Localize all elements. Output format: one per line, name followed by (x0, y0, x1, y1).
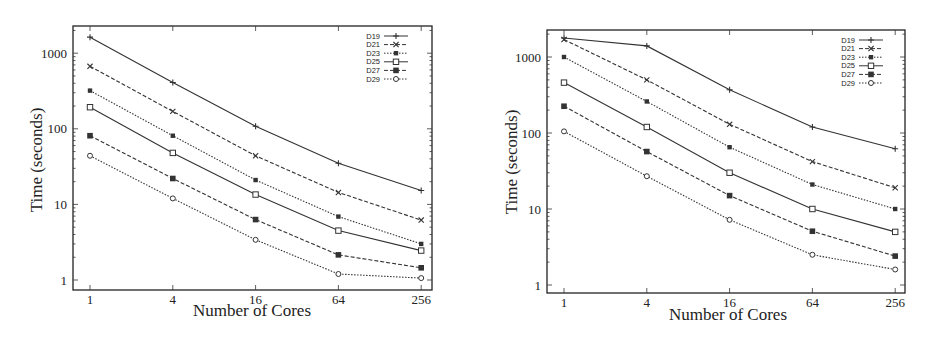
data-point-marker (562, 55, 566, 59)
chart-right-svg: 1101001000141664256Number of CoresTime (… (0, 0, 936, 344)
data-point-marker (892, 146, 898, 152)
data-point-marker (644, 174, 649, 179)
data-point-marker (644, 149, 650, 155)
y-tick-label: 100 (522, 126, 542, 141)
legend-marker (868, 37, 874, 43)
data-point-marker (727, 87, 733, 93)
data-point-marker (727, 122, 732, 127)
x-tick-label: 64 (806, 295, 820, 310)
x-tick-label: 4 (644, 295, 651, 310)
data-point-marker (727, 193, 733, 199)
y-tick-label: 1 (535, 278, 542, 293)
data-point-marker (644, 43, 650, 49)
series-d29 (562, 129, 898, 272)
x-tick-label: 256 (885, 295, 905, 310)
data-point-marker (893, 267, 898, 272)
data-point-marker (893, 207, 897, 211)
y-tick-label: 10 (528, 202, 541, 217)
data-point-marker (810, 206, 815, 211)
series-d27 (561, 103, 898, 258)
data-point-marker (810, 182, 814, 186)
data-point-marker (810, 228, 816, 234)
data-point-marker (727, 145, 731, 149)
legend-label: D29 (841, 79, 855, 88)
y-axis-title: Time (seconds) (502, 110, 521, 215)
legend-marker (868, 72, 874, 78)
data-point-marker (727, 170, 732, 175)
data-point-marker (892, 253, 898, 259)
data-point-marker (562, 129, 567, 134)
legend: D19D21D23D25D27D29 (841, 36, 883, 88)
data-point-marker (893, 229, 898, 234)
data-point-marker (561, 103, 567, 109)
legend-marker (869, 81, 874, 86)
x-axis-title: Number of Cores (669, 305, 787, 324)
data-point-marker (644, 77, 649, 82)
data-point-marker (727, 217, 732, 222)
legend-marker (868, 63, 873, 68)
x-tick-label: 1 (561, 295, 568, 310)
data-point-marker (809, 124, 815, 130)
y-tick-label: 1000 (515, 50, 541, 65)
data-point-marker (645, 99, 649, 103)
data-point-marker (644, 124, 649, 129)
legend-marker (869, 55, 873, 59)
data-point-marker (561, 80, 566, 85)
data-point-marker (893, 185, 898, 190)
data-point-marker (810, 252, 815, 257)
chart-right: 1101001000141664256Number of CoresTime (… (0, 0, 936, 344)
